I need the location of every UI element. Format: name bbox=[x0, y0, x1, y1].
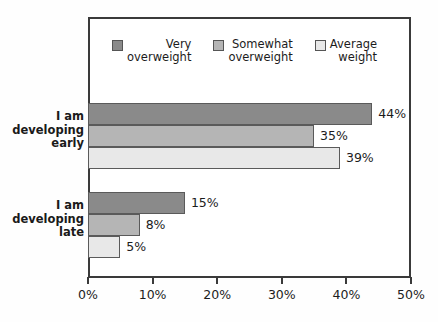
legend-item-average-weight: Averageweight bbox=[315, 38, 377, 63]
bar-value-early-average-weight: 39% bbox=[346, 150, 374, 165]
x-axis-tick-label: 20% bbox=[203, 287, 231, 302]
legend-swatch-very-overweight bbox=[112, 40, 123, 51]
x-axis-tick-label: 40% bbox=[332, 287, 360, 302]
legend-label-line2: weight bbox=[330, 51, 377, 64]
legend-item-very-overweight: Veryoverweight bbox=[112, 38, 191, 63]
bar-late-very-overweight[interactable] bbox=[88, 192, 185, 214]
x-axis-tick bbox=[345, 277, 347, 284]
legend-label-line1: Average bbox=[330, 37, 377, 51]
bar-value-late-average-weight: 5% bbox=[126, 239, 146, 254]
x-axis-tick bbox=[152, 277, 154, 284]
x-axis-tick bbox=[281, 277, 283, 284]
bar-value-late-very-overweight: 15% bbox=[191, 195, 219, 210]
x-axis-tick bbox=[216, 277, 218, 284]
category-label-developing-late: I am developing late bbox=[0, 199, 84, 240]
legend-label-line1: Somewhat bbox=[232, 37, 293, 51]
legend-label-average-weight: Averageweight bbox=[330, 38, 377, 63]
category-label-developing-early: I am developing early bbox=[0, 110, 84, 151]
legend-swatch-average-weight bbox=[315, 40, 326, 51]
x-axis-tick bbox=[410, 277, 412, 284]
category-label-line3: late bbox=[0, 226, 84, 240]
legend-label-very-overweight: Veryoverweight bbox=[127, 38, 191, 63]
category-label-line3: early bbox=[0, 137, 84, 151]
legend-label-line2: overweight bbox=[127, 51, 191, 64]
legend-swatch-somewhat-overweight bbox=[213, 40, 224, 51]
bar-value-early-somewhat-overweight: 35% bbox=[320, 128, 348, 143]
legend-item-somewhat-overweight: Somewhatoverweight bbox=[213, 38, 292, 63]
bar-early-somewhat-overweight[interactable] bbox=[88, 125, 314, 147]
chart-legend: Veryoverweight Somewhatoverweight Averag… bbox=[112, 38, 377, 63]
legend-label-somewhat-overweight: Somewhatoverweight bbox=[228, 38, 292, 63]
bar-late-average-weight[interactable] bbox=[88, 236, 120, 258]
x-axis-tick bbox=[87, 277, 89, 284]
legend-label-line2: overweight bbox=[228, 51, 292, 64]
bar-early-very-overweight[interactable] bbox=[88, 103, 372, 125]
bar-late-somewhat-overweight[interactable] bbox=[88, 214, 140, 236]
category-label-line1: I am bbox=[0, 199, 84, 213]
x-axis-tick-label: 10% bbox=[139, 287, 167, 302]
x-axis-tick-label: 30% bbox=[268, 287, 296, 302]
x-axis-tick-label: 0% bbox=[78, 287, 98, 302]
category-label-line2: developing bbox=[0, 213, 84, 227]
bar-value-late-somewhat-overweight: 8% bbox=[146, 217, 166, 232]
bar-early-average-weight[interactable] bbox=[88, 147, 340, 169]
legend-label-line1: Very bbox=[166, 37, 192, 51]
bar-value-early-very-overweight: 44% bbox=[378, 106, 406, 121]
category-label-line1: I am bbox=[0, 110, 84, 124]
bar-chart: Veryoverweight Somewhatoverweight Averag… bbox=[0, 0, 438, 322]
x-axis-tick-label: 50% bbox=[397, 287, 425, 302]
category-label-line2: developing bbox=[0, 124, 84, 138]
